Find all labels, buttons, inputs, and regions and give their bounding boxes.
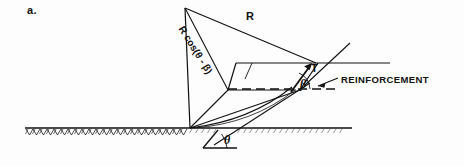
failure-surface-arc — [190, 87, 292, 128]
theta-angle-wedge — [203, 130, 237, 148]
ground-hatching-right — [190, 129, 343, 133]
resultant-label: R — [246, 10, 254, 22]
theta-angle-label: θ — [224, 133, 230, 148]
slope-face-line — [190, 90, 300, 128]
panel-label: a. — [27, 4, 37, 16]
reinforcement-leader — [318, 78, 338, 88]
tension-label: T — [311, 62, 318, 74]
block-thickness-tick — [245, 63, 252, 79]
ground-hatching — [26, 129, 188, 135]
beta-angle-label: β — [300, 77, 306, 92]
reinforcement-label: REINFORCEMENT — [341, 74, 429, 85]
